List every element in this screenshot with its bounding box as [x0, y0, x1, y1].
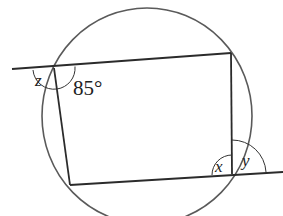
cyclic-quadrilateral-diagram: 85° z x y [0, 0, 283, 216]
angle-label-85: 85° [73, 76, 102, 100]
right-side [231, 53, 232, 174]
left-side [54, 68, 70, 185]
bottom-side-extended-line [70, 172, 283, 185]
top-side-extended-line [12, 53, 231, 69]
angle-label-y: y [240, 151, 250, 170]
angle-label-x: x [214, 157, 223, 176]
angle-label-z: z [34, 71, 42, 90]
